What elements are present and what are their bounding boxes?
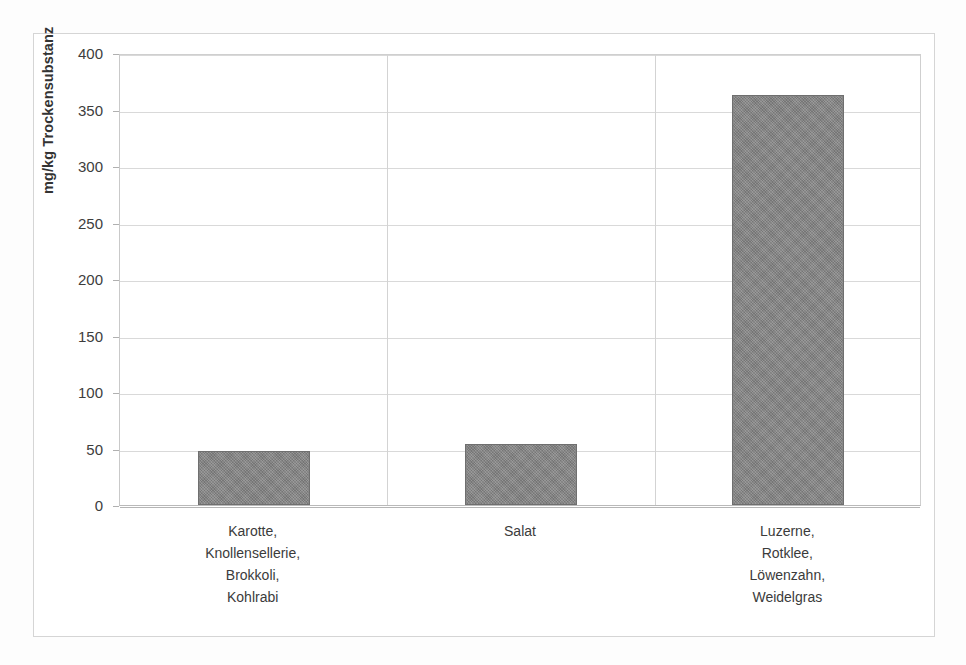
x-axis-label-line: Knollensellerie, [119,542,386,564]
x-axis-label-line: Salat [386,520,653,542]
plot-area [119,54,921,506]
y-axis-tick-label: 300 [34,159,103,174]
x-axis-label-line: Löwenzahn, [654,564,921,586]
y-axis-tick-label: 50 [34,442,103,457]
category-separator [655,55,656,505]
bar [465,444,577,505]
x-axis-category-label: Salat [386,520,653,542]
y-axis-tick-label: 100 [34,385,103,400]
x-axis-label-line: Kohlrabi [119,586,386,608]
y-axis-tick-label: 350 [34,103,103,118]
y-axis-tick-mark [113,506,119,507]
x-axis-label-line: Brokkoli, [119,564,386,586]
gridline [120,55,920,56]
x-axis-label-line: Luzerne, [654,520,921,542]
bar [198,451,310,505]
category-separator [387,55,388,505]
chart-frame: mg/kg Trockensubstanz 400350300250200150… [33,33,935,637]
y-axis-tick-label: 0 [34,498,103,513]
gridline [120,507,920,508]
bar [732,95,844,505]
x-axis-label-line: Karotte, [119,520,386,542]
y-axis-tick-label: 150 [34,329,103,344]
y-axis-tick-label: 400 [34,46,103,61]
x-axis-label-line: Weidelgras [654,586,921,608]
x-axis-category-label: Luzerne,Rotklee,Löwenzahn,Weidelgras [654,520,921,608]
x-axis-category-label: Karotte,Knollensellerie,Brokkoli,Kohlrab… [119,520,386,608]
x-axis-label-line: Rotklee, [654,542,921,564]
y-axis-tick-label: 200 [34,272,103,287]
y-axis-tick-label: 250 [34,216,103,231]
